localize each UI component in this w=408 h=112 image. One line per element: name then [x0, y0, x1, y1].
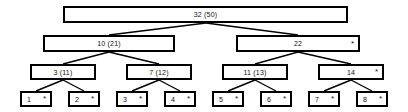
tree-node-label-leaf-7: 7 — [315, 96, 319, 103]
null-pointer-icon-leaf-1: * — [43, 95, 46, 103]
tree-edge-n-7-12-to-leaf-3 — [132, 80, 159, 91]
tree-node-n-7-12[interactable]: 7 (12) — [126, 64, 192, 80]
null-pointer-icon-leaf-8: * — [379, 95, 382, 103]
tree-edge-n-3-11-to-leaf-1 — [36, 80, 63, 91]
tree-edge-n-14-to-leaf-7 — [324, 80, 351, 91]
null-pointer-icon-leaf-4: * — [187, 95, 190, 103]
tree-node-label-leaf-2: 2 — [75, 96, 79, 103]
tree-node-label-leaf-4: 4 — [171, 96, 175, 103]
tree-node-n-14[interactable]: 14* — [318, 64, 384, 80]
tree-edge-n-7-12-to-leaf-4 — [159, 80, 180, 91]
null-pointer-icon-leaf-3: * — [139, 95, 142, 103]
tree-node-leaf-3[interactable]: 3* — [116, 91, 148, 107]
tree-node-label-leaf-6: 6 — [267, 96, 271, 103]
tree-node-label-n-10-21: 10 (21) — [97, 40, 121, 47]
tree-node-label-leaf-8: 8 — [363, 96, 367, 103]
tree-node-n-11-13[interactable]: 11 (13) — [222, 64, 288, 80]
tree-node-label-n-11-13: 11 (13) — [243, 69, 266, 76]
tree-node-n-10-21[interactable]: 10 (21) — [43, 35, 175, 52]
tree-node-label-n-7-12: 7 (12) — [149, 69, 169, 76]
tree-node-leaf-4[interactable]: 4* — [164, 91, 196, 107]
tree-edge-n-11-13-to-leaf-5 — [228, 80, 255, 91]
null-pointer-icon-leaf-6: * — [283, 95, 286, 103]
tree-node-label-n-22: 22 — [294, 40, 302, 47]
null-pointer-icon-leaf-2: * — [91, 95, 94, 103]
null-pointer-icon-n-14: * — [375, 68, 378, 76]
tree-node-label-n-3-11: 3 (11) — [54, 69, 73, 76]
tree-edge-root-to-n-22 — [206, 23, 298, 35]
tree-node-n-22[interactable]: 22* — [236, 35, 360, 52]
tree-edge-n-22-to-n-11-13 — [255, 52, 298, 64]
null-pointer-icon-leaf-5: * — [235, 95, 238, 103]
tree-node-leaf-1[interactable]: 1* — [20, 91, 52, 107]
tree-edge-root-to-n-10-21 — [109, 23, 206, 35]
tree-edge-n-10-21-to-n-7-12 — [109, 52, 159, 64]
tree-node-label-leaf-3: 3 — [123, 96, 127, 103]
tree-node-leaf-8[interactable]: 8* — [356, 91, 388, 107]
tree-node-label-n-14: 14 — [347, 69, 355, 76]
tree-node-root[interactable]: 32 (50) — [63, 6, 348, 23]
tree-node-label-leaf-5: 5 — [219, 96, 223, 103]
tree-node-leaf-7[interactable]: 7* — [308, 91, 340, 107]
tree-edge-n-22-to-n-14 — [298, 52, 351, 64]
tree-node-n-3-11[interactable]: 3 (11) — [30, 64, 96, 80]
tree-node-leaf-5[interactable]: 5* — [212, 91, 244, 107]
tree-edge-n-10-21-to-n-3-11 — [63, 52, 109, 64]
tree-node-label-root: 32 (50) — [194, 11, 218, 18]
tree-edge-n-11-13-to-leaf-6 — [255, 80, 276, 91]
null-pointer-icon-n-22: * — [351, 40, 354, 48]
tree-node-label-leaf-1: 1 — [27, 96, 31, 103]
tree-edge-n-3-11-to-leaf-2 — [63, 80, 84, 91]
b-plus-tree-diagram: 32 (50)10 (21)22*3 (11)7 (12)11 (13)14*1… — [0, 0, 408, 112]
tree-node-leaf-6[interactable]: 6* — [260, 91, 292, 107]
tree-edge-n-14-to-leaf-8 — [351, 80, 372, 91]
tree-node-leaf-2[interactable]: 2* — [68, 91, 100, 107]
null-pointer-icon-leaf-7: * — [331, 95, 334, 103]
